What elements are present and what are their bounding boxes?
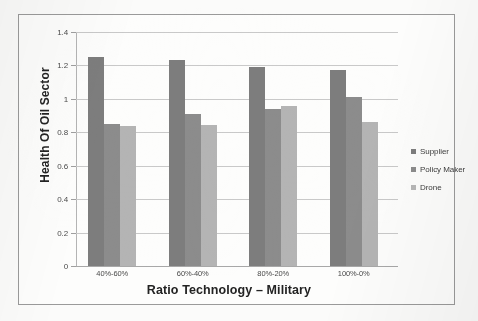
bar	[201, 125, 217, 266]
y-axis-tick-label: 0	[28, 262, 68, 271]
bar	[88, 57, 104, 266]
chart-legend: SupplierPolicy MakerDrone	[411, 147, 478, 201]
y-axis-tick-label: 0.2	[28, 228, 68, 237]
bar	[249, 67, 265, 266]
legend-label: Drone	[420, 183, 442, 192]
chart-frame: 00.20.40.60.811.21.4 40%-60%60%-40%80%-2…	[18, 14, 455, 305]
bar-group	[330, 32, 378, 266]
bar	[104, 124, 120, 266]
y-axis-tick-mark	[71, 65, 76, 66]
legend-swatch-icon	[411, 149, 416, 154]
bar-group	[249, 32, 297, 266]
scanned-page: 00.20.40.60.811.21.4 40%-60%60%-40%80%-2…	[0, 0, 478, 321]
x-axis-tick-label: 80%-20%	[257, 269, 289, 278]
x-axis-tick-labels: 40%-60%60%-40%80%-20%100%-0%	[76, 269, 398, 283]
y-axis-tick-mark	[71, 32, 76, 33]
legend-item[interactable]: Policy Maker	[411, 165, 478, 174]
y-axis-tick-mark	[71, 166, 76, 167]
bar	[120, 126, 136, 266]
x-axis-title: Ratio Technology – Military	[59, 283, 399, 297]
bar	[281, 106, 297, 266]
y-axis-tick-mark	[71, 99, 76, 100]
y-axis-tick-mark	[71, 233, 76, 234]
y-axis-tick-mark	[71, 132, 76, 133]
legend-label: Supplier	[420, 147, 449, 156]
bar-group	[169, 32, 217, 266]
bar	[169, 60, 185, 266]
legend-swatch-icon	[411, 185, 416, 190]
bar	[362, 122, 378, 266]
gridline	[76, 266, 398, 267]
x-axis-tick-label: 40%-60%	[96, 269, 128, 278]
plot-area	[76, 32, 398, 266]
y-axis-tick-label: 1.4	[28, 28, 68, 37]
bar	[185, 114, 201, 266]
x-axis-tick-label: 60%-40%	[177, 269, 209, 278]
bar-group	[88, 32, 136, 266]
y-axis-tick-mark	[71, 266, 76, 267]
legend-item[interactable]: Supplier	[411, 147, 478, 156]
bar	[265, 109, 281, 266]
y-axis-tick-mark	[71, 199, 76, 200]
legend-swatch-icon	[411, 167, 416, 172]
y-axis-title: Health Of Oil Sector	[38, 51, 52, 199]
bar	[346, 97, 362, 266]
bar	[330, 70, 346, 266]
x-axis-tick-label: 100%-0%	[338, 269, 370, 278]
legend-item[interactable]: Drone	[411, 183, 478, 192]
legend-label: Policy Maker	[420, 165, 465, 174]
